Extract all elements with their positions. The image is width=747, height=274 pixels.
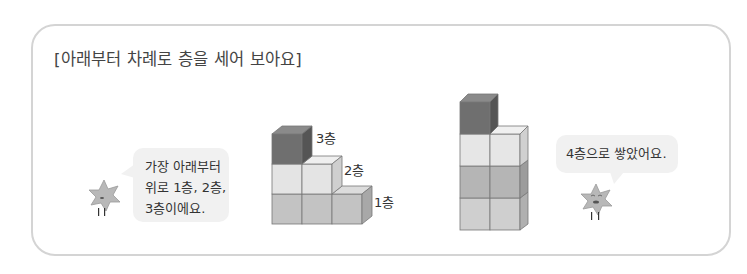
floor-label-3: 3층: [316, 128, 336, 147]
speech-bubble-left: 가장 아래부터 위로 1층, 2층, 3층이에요.: [133, 148, 229, 222]
bubble-tail-icon: [121, 164, 135, 180]
cube-stack-four-floors: [456, 88, 536, 238]
speech-bubble-right: 4층으로 쌓았어요.: [556, 135, 678, 173]
bubble-line: 4층으로 쌓았어요.: [566, 143, 678, 164]
floor-label-2: 2층: [344, 160, 364, 179]
star-character-icon: [578, 182, 614, 222]
section-title: [아래부터 차례로 층을 세어 보아요]: [54, 46, 302, 70]
bubble-line: 위로 1층, 2층,: [145, 177, 229, 198]
floor-label-1: 1층: [374, 192, 394, 211]
bubble-line: 가장 아래부터: [145, 156, 229, 177]
star-character-icon: [86, 178, 122, 218]
bubble-line: 3층이에요.: [145, 198, 229, 219]
